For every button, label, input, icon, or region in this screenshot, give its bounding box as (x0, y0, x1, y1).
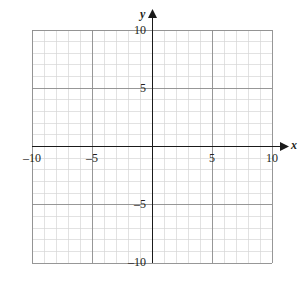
y-tick-label-5: 5 (106, 82, 146, 94)
x-tick-label-neg5: –5 (72, 152, 112, 164)
x-tick-label-neg10: –10 (12, 152, 52, 164)
x-axis-label: x (291, 139, 297, 151)
y-axis-label: y (140, 8, 145, 20)
y-tick-label-neg10: –10 (106, 256, 146, 268)
coordinate-grid-svg (0, 0, 305, 287)
x-tick-label-10: 10 (252, 152, 292, 164)
x-axis-arrowhead (280, 142, 289, 151)
y-axis-arrowhead (148, 9, 157, 18)
x-axis (32, 142, 289, 151)
x-tick-label-5: 5 (192, 152, 232, 164)
coordinate-plane-figure: 10 5 –5 –10 –10 –5 5 10 y x (0, 0, 305, 287)
y-axis (148, 9, 157, 263)
y-tick-label-10: 10 (106, 24, 146, 36)
y-tick-label-neg5: –5 (106, 198, 146, 210)
